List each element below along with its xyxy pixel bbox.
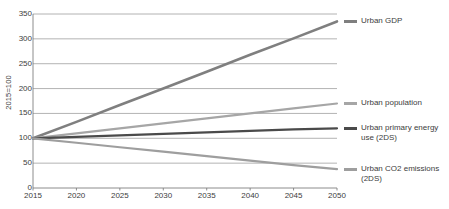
legend-color-swatch	[344, 102, 357, 105]
legend-label: Urban GDP	[361, 16, 402, 26]
line-chart-figure: 2015=100 050100150200250300350 201520202…	[0, 0, 449, 209]
legend-label: Urban primary energy use (2DS)	[361, 123, 438, 143]
chart-legend: Urban GDPUrban populationUrban primary e…	[0, 0, 449, 209]
legend-label: Urban population	[361, 98, 422, 108]
legend-color-swatch	[344, 20, 357, 23]
legend-item[interactable]: Urban GDP	[344, 16, 402, 26]
legend-item[interactable]: Urban primary energy use (2DS)	[344, 123, 438, 143]
legend-color-swatch	[344, 168, 357, 171]
legend-item[interactable]: Urban population	[344, 98, 422, 108]
legend-color-swatch	[344, 127, 357, 130]
legend-item[interactable]: Urban CO2 emissions (2DS)	[344, 164, 439, 184]
legend-label: Urban CO2 emissions (2DS)	[361, 164, 439, 184]
